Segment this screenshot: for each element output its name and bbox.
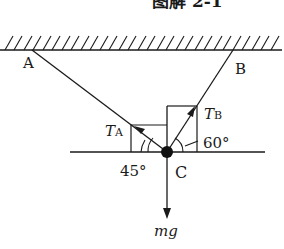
rope-ac: [32, 50, 167, 152]
angle-arc-45-tick: [141, 140, 145, 152]
label-angle-60: 60°: [203, 134, 230, 152]
label-point-a: A: [22, 54, 34, 72]
gravity-arrowhead: [163, 208, 171, 219]
label-gravity: mg: [154, 222, 178, 240]
label-tension-a: TA: [105, 122, 124, 140]
tension-a-subscript: A: [114, 126, 124, 139]
label-angle-45: 45°: [120, 162, 147, 180]
label-tension-b: TB: [204, 105, 222, 123]
angle-arc-60: [175, 138, 183, 152]
angle-60-pointer: [185, 141, 198, 146]
label-point-b: B: [235, 60, 246, 78]
ceiling: [0, 36, 282, 50]
tension-b-arrowhead: [187, 106, 195, 117]
point-c: [161, 146, 173, 158]
ceiling-hatching: [5, 36, 279, 50]
tension-b-subscript: B: [214, 109, 222, 122]
tension-a-arrowhead: [134, 126, 145, 134]
figure-caption: 图解 2-1: [152, 0, 223, 11]
force-diagram: 图解 2-1: [0, 0, 284, 249]
label-point-c: C: [175, 163, 187, 182]
